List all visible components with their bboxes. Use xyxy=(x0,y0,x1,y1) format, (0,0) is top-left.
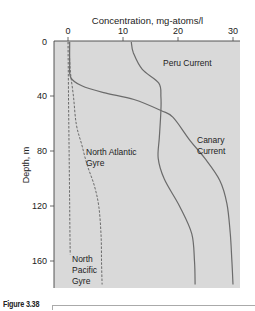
series-label-north-atlantic: Gyre xyxy=(86,158,105,168)
depth-concentration-chart: 0 10 20 30 0 40 80 120 160 Depth, m Peru… xyxy=(0,0,255,311)
y-tick-label: 0 xyxy=(42,37,47,47)
series-label-north-pacific: Gyre xyxy=(72,276,91,286)
series-label-north-pacific: North xyxy=(72,254,93,264)
series-label-north-pacific: Pacific xyxy=(72,265,98,275)
y-tick-label: 40 xyxy=(37,91,47,101)
x-tick-label: 0 xyxy=(65,26,70,36)
y-tick-label: 120 xyxy=(32,201,47,211)
y-axis-label: Depth, m xyxy=(21,147,31,184)
series-label-canary: Canary xyxy=(197,135,225,145)
y-ticks: 0 40 80 120 160 xyxy=(32,37,54,266)
x-tick-label: 10 xyxy=(118,26,128,36)
y-tick-label: 160 xyxy=(32,256,47,266)
series-label-peru: Peru Current xyxy=(163,58,212,68)
x-tick-label: 30 xyxy=(228,26,238,36)
x-tick-label: 20 xyxy=(173,26,183,36)
series-label-canary: Current xyxy=(197,146,226,156)
plot-area xyxy=(54,41,240,288)
x-ticks: 0 10 20 30 xyxy=(65,26,238,41)
figure-caption: Figure 3.38 xyxy=(3,299,39,309)
y-tick-label: 80 xyxy=(37,146,47,156)
caption-rule xyxy=(52,305,255,306)
series-label-north-atlantic: North Atlantic xyxy=(86,147,137,157)
